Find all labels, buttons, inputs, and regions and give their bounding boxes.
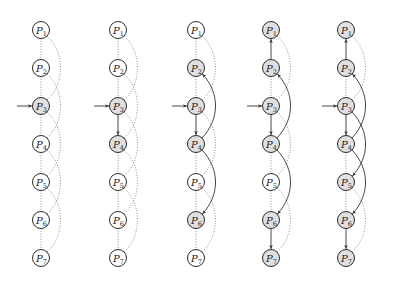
node-P5: P5 — [338, 174, 355, 191]
node-P2: P2 — [188, 60, 205, 77]
panel-5: P1P2P3P4P5P6P7 — [322, 22, 366, 267]
node-P6: P6 — [33, 212, 50, 229]
panel-2: P1P2P3P4P5P6P7 — [94, 22, 137, 267]
panel-1: P1P2P3P4P5P6P7 — [17, 22, 60, 267]
node-P5: P5 — [33, 174, 50, 191]
node-P2: P2 — [110, 60, 127, 77]
node-P1: P1 — [263, 22, 280, 39]
node-P7: P7 — [188, 250, 205, 267]
node-P5: P5 — [110, 174, 127, 191]
node-P4: P4 — [338, 136, 355, 153]
node-P5: P5 — [263, 174, 280, 191]
node-P6: P6 — [263, 212, 280, 229]
node-P7: P7 — [110, 250, 127, 267]
node-P3: P3 — [33, 98, 50, 115]
process-step-diagram: P1P2P3P4P5P6P7P1P2P3P4P5P6P7P1P2P3P4P5P6… — [0, 0, 398, 288]
node-P7: P7 — [263, 250, 280, 267]
node-P4: P4 — [110, 136, 127, 153]
node-P3: P3 — [263, 98, 280, 115]
node-P2: P2 — [338, 60, 355, 77]
node-P1: P1 — [338, 22, 355, 39]
node-P4: P4 — [33, 136, 50, 153]
node-P1: P1 — [188, 22, 205, 39]
node-P5: P5 — [188, 174, 205, 191]
node-P4: P4 — [263, 136, 280, 153]
node-P4: P4 — [188, 136, 205, 153]
node-P3: P3 — [110, 98, 127, 115]
node-P2: P2 — [33, 60, 50, 77]
node-P2: P2 — [263, 60, 280, 77]
node-P6: P6 — [338, 212, 355, 229]
node-P3: P3 — [188, 98, 205, 115]
node-P1: P1 — [110, 22, 127, 39]
node-P1: P1 — [33, 22, 50, 39]
node-P7: P7 — [33, 250, 50, 267]
node-P6: P6 — [110, 212, 127, 229]
node-P3: P3 — [338, 98, 355, 115]
panel-3: P1P2P3P4P5P6P7 — [172, 22, 216, 267]
panel-4: P1P2P3P4P5P6P7 — [247, 22, 291, 267]
node-P6: P6 — [188, 212, 205, 229]
node-P7: P7 — [338, 250, 355, 267]
